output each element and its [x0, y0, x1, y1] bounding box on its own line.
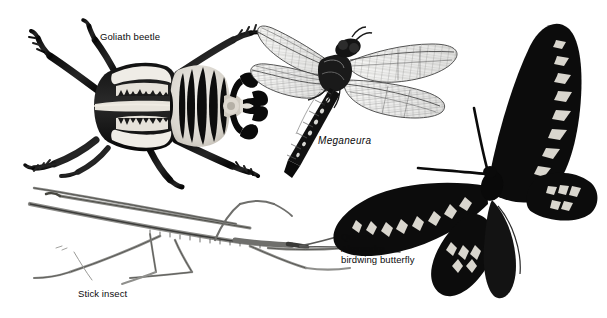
label-meganeura: Meganeura — [318, 135, 371, 147]
label-birdwing-line-3: birdwing butterfly — [341, 254, 436, 266]
birdwing-butterfly-illustration — [0, 0, 607, 318]
insect-illustration-plate: Goliath beetle Meganeura Stick insect Qu… — [0, 0, 607, 318]
label-birdwing-butterfly: Queen Alexandra birdwing butterfly — [341, 231, 436, 266]
label-goliath-beetle: Goliath beetle — [100, 31, 160, 43]
label-stick-insect: Stick insect — [78, 288, 127, 300]
label-birdwing-line-1: Queen — [341, 231, 436, 243]
label-birdwing-line-2: Alexandra — [341, 243, 436, 255]
butterfly-antennae — [418, 108, 488, 174]
